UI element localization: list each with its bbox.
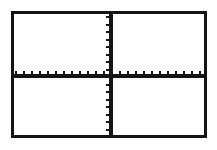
quadrant-iv (111, 76, 204, 135)
quadrant-iii (14, 76, 111, 135)
plot-area[interactable] (14, 14, 204, 135)
calculator-screen (0, 0, 217, 150)
y-axis-line (109, 14, 113, 135)
quadrant-ii (14, 14, 111, 76)
coordinate-axes (14, 14, 204, 135)
plot-frame (11, 11, 207, 138)
quadrant-i (111, 14, 204, 76)
